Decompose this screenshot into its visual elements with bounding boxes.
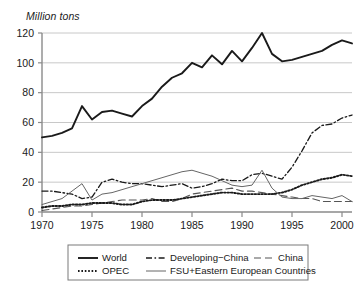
chart-figure: Million tons 020406080100120 19701975198… [0,0,361,290]
x-tick-label: 2000 [330,219,354,231]
x-tick-label: 1975 [80,219,104,231]
line-chart-plot: 020406080100120 197019751980198519901995… [0,0,361,290]
x-tick-label: 1990 [230,219,254,231]
y-tick-label: 120 [16,27,34,39]
x-tick-label: 1985 [180,219,204,231]
x-axis [42,212,352,217]
x-tick-labels: 1970197519801985199019952000 [30,219,354,231]
y-tick-label: 80 [22,86,34,98]
y-tick-label: 60 [22,116,34,128]
legend-label: OPEC [102,265,129,276]
y-tick-label: 20 [22,176,34,188]
y-tick-label: 0 [28,206,34,218]
y-axis [38,33,42,212]
x-tick-label: 1995 [280,219,304,231]
y-tick-label: 100 [16,57,34,69]
series-line [42,33,352,137]
y-tick-label: 40 [22,146,34,158]
x-tick-label: 1980 [130,219,154,231]
legend-label: Developing−China [170,252,249,263]
series-line [42,188,352,210]
series-line [42,115,352,199]
y-tick-labels: 020406080100120 [16,27,34,218]
legend-label: FSU+Eastern European Countries [170,265,316,276]
x-tick-label: 1970 [30,219,54,231]
y-axis-title: Million tons [26,10,80,22]
series-line [42,175,352,208]
chart-legend: WorldDeveloping−ChinaChinaOPECFSU+Easter… [68,245,316,280]
legend-label: China [278,252,304,263]
legend-label: World [102,252,127,263]
data-series-group [42,33,352,211]
